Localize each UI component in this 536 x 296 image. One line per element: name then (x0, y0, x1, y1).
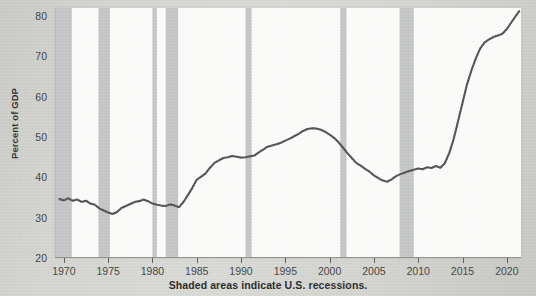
recession-band (55, 8, 72, 258)
x-axis-tick-mark (64, 258, 65, 263)
x-axis-tick-label: 2015 (441, 265, 485, 277)
x-axis-tick-label: 1980 (130, 265, 174, 277)
y-axis-tick-label: 80 (25, 11, 47, 21)
y-axis-tick-label: 30 (25, 213, 47, 223)
data-series-group (59, 11, 519, 214)
x-axis-tick-mark (152, 258, 153, 263)
x-axis-tick-mark (285, 258, 286, 263)
x-axis-tick-label: 1990 (219, 265, 263, 277)
recession-band (166, 8, 178, 258)
y-axis-tick-label: 50 (25, 132, 47, 142)
plot-area (55, 8, 521, 258)
x-axis-tick-mark (241, 258, 242, 263)
x-axis-tick-mark (374, 258, 375, 263)
x-axis-tick-label: 2000 (308, 265, 352, 277)
x-axis-tick-label: 2005 (352, 265, 396, 277)
recession-band (340, 8, 346, 258)
x-axis-tick-label: 1995 (263, 265, 307, 277)
y-axis-title: Percent of GDP (9, 74, 20, 174)
x-axis-tick-mark (197, 258, 198, 263)
recession-band (245, 8, 251, 258)
y-axis-tick-label: 40 (25, 172, 47, 182)
x-axis-tick-label: 2010 (396, 265, 440, 277)
x-axis-tick-mark (418, 258, 419, 263)
recession-band (400, 8, 414, 258)
x-axis-tick-label: 1975 (86, 265, 130, 277)
x-axis-tick-label: 1985 (175, 265, 219, 277)
chart-figure: 20304050607080 Percent of GDP 1970197519… (0, 0, 536, 296)
recession-band (98, 8, 110, 258)
y-axis-line (55, 8, 56, 258)
data-line (59, 11, 519, 214)
x-axis-tick-mark (330, 258, 331, 263)
x-axis-tick-mark (507, 258, 508, 263)
recession-bands-group (55, 8, 414, 258)
y-axis-tick-label: 60 (25, 92, 47, 102)
x-axis-tick-mark (463, 258, 464, 263)
recession-band (152, 8, 156, 258)
chart-canvas (55, 8, 521, 258)
x-axis-tick-mark (108, 258, 109, 263)
y-axis-ticks: 20304050607080 (21, 0, 47, 296)
x-axis-tick-label: 2020 (485, 265, 529, 277)
chart-caption: Shaded areas indicate U.S. recessions. (0, 279, 536, 291)
y-axis-tick-label: 70 (25, 51, 47, 61)
x-axis-tick-label: 1970 (42, 265, 86, 277)
